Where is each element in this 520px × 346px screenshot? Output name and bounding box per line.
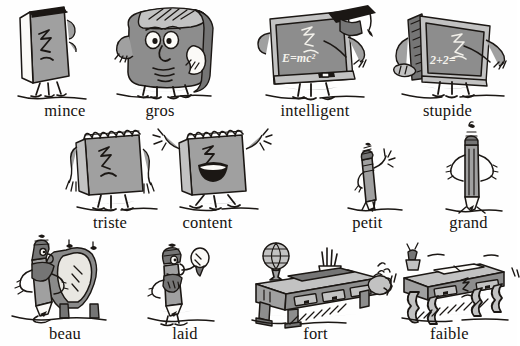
illustration-cell-faible: faible — [382, 232, 517, 346]
illustration-cell-gros: gros — [95, 0, 225, 120]
illustration-cell-beau: beau — [0, 232, 130, 346]
illustration-cell-grand: grand — [420, 118, 517, 233]
label-content: content — [140, 213, 275, 233]
label-faible: faible — [382, 324, 517, 344]
artwork-pen-ugly-mirror — [144, 242, 218, 326]
illustration-cell-fort: fort — [248, 232, 383, 346]
artwork-book-fat — [105, 2, 223, 100]
label-beau: beau — [0, 324, 130, 344]
artwork-pencil-tall — [438, 121, 508, 217]
illustration-cell-intelligent: E=mc² intelligent — [250, 0, 380, 120]
artwork-book-thin — [12, 4, 90, 100]
artwork-pencil-short — [344, 142, 406, 216]
illustration-cell-content: content — [140, 118, 275, 233]
svg-text:2+2=: 2+2= — [429, 53, 456, 67]
label-laid: laid — [120, 324, 250, 344]
artwork-pen-handsome-mirror — [10, 234, 110, 326]
artwork-notepad-happy — [150, 121, 268, 215]
artwork-desk-weak — [388, 240, 520, 326]
label-grand: grand — [420, 213, 517, 233]
artwork-blackboard-dumb: 2+2= — [382, 4, 510, 100]
label-petit: petit — [320, 213, 415, 233]
label-fort: fort — [248, 324, 383, 344]
artwork-desk-strong — [252, 240, 386, 326]
artwork-blackboard-smart: E=mc² — [256, 3, 380, 101]
illustration-cell-laid: laid — [120, 232, 250, 346]
illustration-cell-petit: petit — [320, 118, 415, 233]
illustration-cell-stupide: 2+2= stupide — [378, 0, 517, 120]
svg-text:E=mc²: E=mc² — [281, 51, 316, 65]
